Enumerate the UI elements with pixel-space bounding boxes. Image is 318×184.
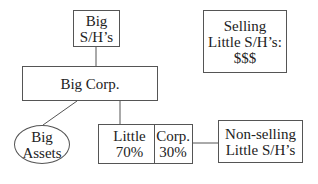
big-assets-line1: Big (31, 129, 53, 145)
selling-line2: Little S/H’s: (208, 34, 282, 50)
big-assets-ellipse: Big Assets (14, 125, 70, 164)
non-selling-line2: Little S/H’s (226, 142, 296, 158)
little-corp-box: Little 70% Corp. 30% (98, 124, 193, 164)
selling-line3: $$$ (234, 50, 257, 66)
little-corp-left-line1: Little (107, 128, 146, 144)
non-selling-box: Non-selling Little S/H’s (218, 120, 303, 163)
connector-bigcorp-bigassets (43, 101, 77, 125)
big-corp-label: Big Corp. (60, 76, 119, 92)
big-shareholders-line1: Big (86, 13, 108, 29)
big-shareholders-line2: S/H’s (80, 29, 113, 45)
non-selling-line1: Non-selling (225, 126, 296, 142)
little-corp-right: Corp. 30% (154, 125, 192, 163)
little-corp-left: Little 70% (99, 125, 155, 163)
selling-line1: Selling (224, 18, 267, 34)
big-shareholders-box: Big S/H’s (73, 10, 120, 47)
selling-box: Selling Little S/H’s: $$$ (203, 10, 287, 73)
little-corp-right-line2: 30% (159, 144, 187, 160)
big-assets-line2: Assets (22, 145, 61, 161)
little-corp-right-line1: Corp. (156, 128, 190, 144)
little-corp-left-line2: 70% (110, 144, 144, 160)
big-corp-box: Big Corp. (22, 66, 158, 101)
